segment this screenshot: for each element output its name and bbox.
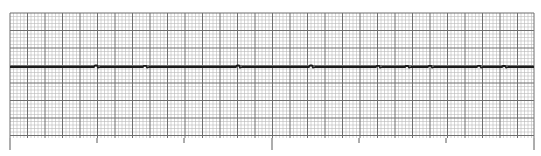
ecg-strip-chart: [0, 0, 541, 156]
